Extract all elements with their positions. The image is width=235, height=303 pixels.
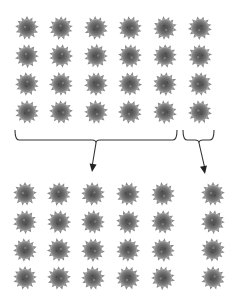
flower-icon (147, 178, 180, 211)
flower-icon (45, 11, 78, 44)
flower-icon (146, 261, 179, 294)
flower-icon (201, 182, 225, 206)
flower-icon (116, 266, 140, 290)
arrow-left-head-icon (90, 164, 97, 172)
flower-icon (113, 68, 146, 101)
flower-icon (12, 97, 42, 127)
flower-icon (81, 238, 105, 262)
flower-icon (115, 13, 145, 43)
flower-icon (15, 16, 39, 40)
flower-icon (113, 208, 142, 237)
flower-icon (46, 98, 75, 127)
flower-icon (148, 95, 181, 128)
flower-icon (197, 205, 230, 238)
flower-icon (45, 68, 78, 101)
flower-icon (76, 262, 109, 295)
flower-icon (148, 207, 178, 237)
right-group-bracket (183, 130, 214, 169)
flower-icon (184, 40, 217, 73)
flower-icon (187, 15, 213, 41)
flower-icon (43, 234, 76, 267)
flower-icon (79, 179, 108, 208)
flower-icon (49, 44, 73, 68)
flower-icon (9, 205, 42, 238)
flower-icon (77, 206, 110, 239)
flower-icon (185, 97, 214, 126)
flower-icon (150, 69, 179, 98)
flower-icon (11, 39, 44, 72)
flower-icon (10, 263, 40, 293)
flower-icon (149, 12, 182, 45)
flower-icon (113, 179, 143, 209)
bottom-right-flower-array (197, 182, 230, 293)
flower-icon (185, 69, 215, 99)
flower-icon (118, 100, 142, 124)
flower-icon (198, 263, 228, 293)
left-group-bracket (15, 130, 177, 167)
bottom-left-flower-array (9, 177, 180, 294)
arrow-right-head-icon (200, 165, 207, 174)
flower-icon (13, 182, 37, 206)
flower-icon (148, 235, 177, 264)
flower-icon (44, 264, 73, 293)
flower-icon (13, 69, 42, 98)
flower-icon (111, 234, 144, 267)
flower-icon (82, 13, 111, 42)
array-split-diagram (0, 0, 235, 303)
flower-icon (79, 96, 112, 129)
flower-icon (11, 235, 40, 264)
flower-icon (43, 177, 76, 210)
flower-icon (115, 42, 144, 71)
flower-icon (80, 40, 113, 73)
flower-icon (150, 41, 180, 71)
flower-icon (199, 235, 228, 264)
top-flower-array (11, 11, 216, 128)
flower-icon (47, 210, 71, 234)
flower-icon (84, 72, 108, 96)
